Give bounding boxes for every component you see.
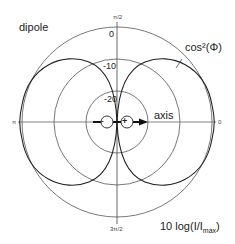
scale-label: 10 log(I/Imax): [160, 221, 220, 234]
curve-label: cos²(Φ): [185, 42, 222, 53]
negative-charge-label: -: [101, 117, 104, 126]
scale-label-end: ): [216, 220, 220, 232]
diagram-title: dipole: [19, 22, 48, 33]
scale-label-main: 10 log(I/I: [160, 220, 203, 232]
curve-label-leader: [176, 59, 182, 68]
scale-label-sub: max: [203, 227, 216, 234]
angle-label-right: 0: [218, 119, 221, 125]
polar-diagram: [0, 0, 235, 244]
angle-label-bottom: 3π/2: [110, 226, 122, 232]
angle-label-top: π/2: [113, 14, 122, 20]
positive-charge-label: +: [122, 117, 127, 126]
ring-label-0: 0: [109, 30, 114, 39]
ring-label-minus10: -10: [103, 62, 116, 71]
arrow-head-icon: [139, 119, 148, 126]
angle-label-left: π: [12, 119, 16, 125]
ring-label-minus20: -20: [104, 95, 117, 104]
axis-label: axis: [154, 110, 174, 121]
